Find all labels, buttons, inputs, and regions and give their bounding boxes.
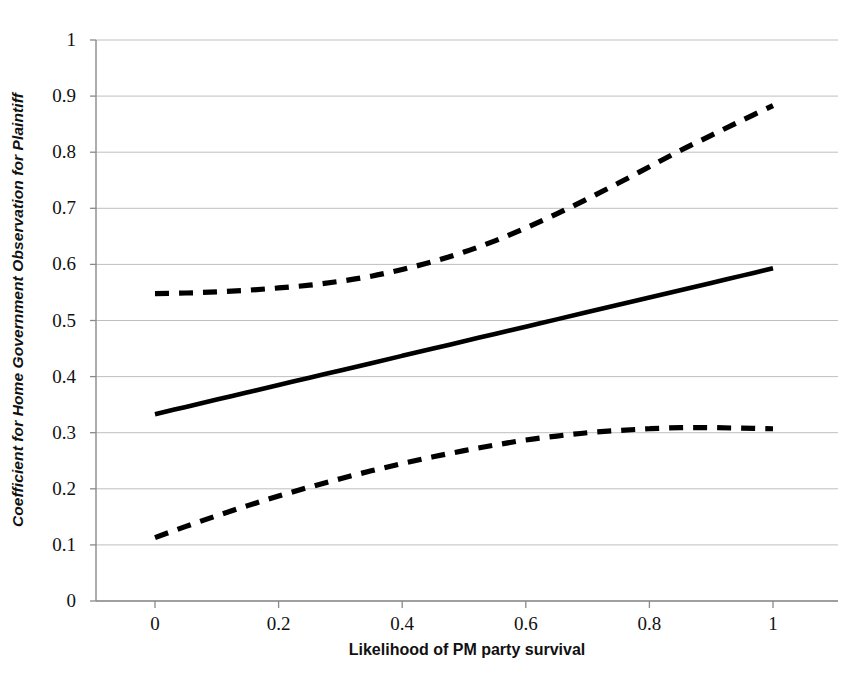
y-tick-label: 0 [30, 591, 76, 610]
x-tick-label: 0.6 [496, 614, 556, 633]
y-tick-label: 0.1 [30, 535, 76, 554]
y-tick-label: 0.4 [30, 367, 76, 386]
y-tick-label: 0.2 [30, 479, 76, 498]
data-series-group [155, 106, 773, 538]
figure-container: Coefficient for Home Government Observat… [0, 0, 859, 682]
y-tick-label: 0.6 [30, 254, 76, 273]
x-tick-label: 0 [125, 614, 185, 633]
y-tick-label: 0.8 [30, 142, 76, 161]
chart-plot-area [0, 0, 859, 682]
series-line-dashed [155, 106, 773, 294]
figure-caption [96, 672, 838, 682]
series-line-dashed [155, 428, 773, 538]
x-tick-label: 0.2 [249, 614, 309, 633]
y-tick-label: 0.3 [30, 423, 76, 442]
y-tick-label: 1 [30, 30, 76, 49]
series-line-solid [155, 268, 773, 414]
x-tick-label: 0.4 [372, 614, 432, 633]
y-tick-marks-group [90, 40, 96, 601]
y-tick-label: 0.9 [30, 86, 76, 105]
y-tick-label: 0.5 [30, 311, 76, 330]
y-tick-label: 0.7 [30, 198, 76, 217]
x-tick-label: 1 [743, 614, 803, 633]
x-tick-marks-group [155, 601, 773, 608]
x-tick-label: 0.8 [619, 614, 679, 633]
x-axis-label: Likelihood of PM party survival [96, 641, 838, 659]
